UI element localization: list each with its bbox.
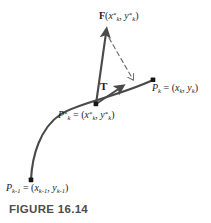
figure-caption: FIGURE 16.14 <box>9 203 88 215</box>
pointstar-equals: = <box>71 109 82 120</box>
point-star-label: P*k = (x*k, y*k) <box>58 110 115 122</box>
pointk-close-paren: ) <box>195 82 198 93</box>
pointkm1-arg1-sub: k-1 <box>39 187 47 194</box>
point-km1-label: Pk-1 = (xk-1, yk-1) <box>6 183 68 195</box>
tangent-symbol: T <box>100 80 107 92</box>
force-vector-label: F(x*k, y*k) <box>99 11 138 23</box>
pointkm1-close-paren: ) <box>65 182 68 193</box>
force-close-paren: ) <box>135 10 138 21</box>
pointkm1-arg2-sub: k-1 <box>57 187 65 194</box>
sample-point-dot <box>94 102 99 107</box>
pointkm1-equals: = <box>20 182 31 193</box>
pointstar-close-paren: ) <box>111 109 114 120</box>
figure-container: F(x*k, y*k) T Pk = (xk, yk) P*k = (x*k, … <box>0 0 211 223</box>
pointk-equals: = <box>161 82 172 93</box>
tangent-vector-label: T <box>100 81 107 92</box>
curve-path <box>31 80 153 180</box>
force-vector-arrow <box>96 33 106 104</box>
dashed-construction-line <box>109 38 131 76</box>
point-k-label: Pk = (xk, yk) <box>152 83 198 95</box>
